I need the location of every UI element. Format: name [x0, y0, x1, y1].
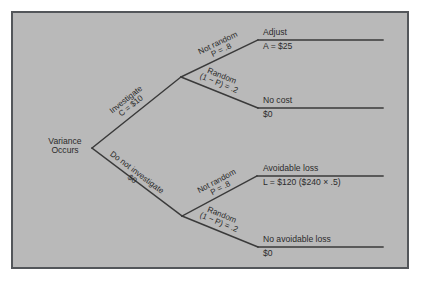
outcome-title-no-cost: No cost	[263, 96, 292, 105]
decision-tree-figure: Variance Occurs Investigate C = $10 Do n…	[0, 0, 422, 289]
outcome-value-adjust: A = $25	[263, 42, 292, 51]
root-node-line2: Occurs	[51, 145, 78, 155]
outcome-title-no-avoidable-loss: No avoidable loss	[263, 235, 331, 244]
root-node-label: Variance Occurs	[40, 137, 90, 155]
outcome-value-no-cost: $0	[263, 110, 273, 119]
outcome-value-avoidable-loss: L = $120 ($240 × .5)	[263, 178, 341, 187]
outcome-title-avoidable-loss: Avoidable loss	[263, 164, 318, 173]
outcome-value-no-avoidable-loss: $0	[263, 249, 273, 258]
outcome-title-adjust: Adjust	[263, 28, 287, 37]
